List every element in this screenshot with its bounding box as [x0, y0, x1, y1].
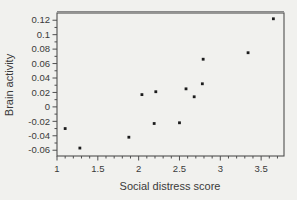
y-axis-label: Brain activity: [3, 53, 15, 116]
data-point: [127, 136, 130, 139]
x-tick-label: 1: [54, 163, 59, 174]
data-point: [247, 51, 250, 54]
y-tick-label: 0.12: [32, 14, 51, 25]
data-point: [154, 90, 157, 93]
data-point: [64, 127, 67, 130]
data-point: [202, 58, 205, 61]
data-points: [64, 17, 275, 149]
y-tick-label: 0: [45, 101, 50, 112]
y-tick-label: 0.02: [32, 87, 51, 98]
data-point: [201, 82, 204, 85]
x-tick-label: 2.5: [173, 163, 186, 174]
data-point: [178, 121, 181, 124]
axis-ticks: [53, 20, 278, 160]
y-tick-label: 0.08: [32, 43, 51, 54]
y-tick-label: 0.06: [32, 58, 51, 69]
y-tick-label: -0.06: [28, 144, 50, 155]
tick-labels: 11.522.533.50.120.10.080.060.040.020-0.0…: [28, 14, 267, 174]
x-tick-label: 2: [136, 163, 141, 174]
y-tick-label: 0.04: [32, 72, 51, 83]
y-tick-label: 0.1: [37, 29, 50, 40]
data-point: [141, 93, 144, 96]
x-tick-label: 3: [218, 163, 223, 174]
x-axis-label: Social distress score: [120, 180, 221, 192]
data-point: [185, 87, 188, 90]
scatter-plot-figure: 11.522.533.50.120.10.080.060.040.020-0.0…: [0, 0, 297, 200]
data-point: [272, 17, 275, 20]
plot-border: [57, 13, 284, 156]
x-tick-label: 3.5: [255, 163, 268, 174]
x-tick-label: 1.5: [91, 163, 104, 174]
scatter-plot: 11.522.533.50.120.10.080.060.040.020-0.0…: [0, 0, 297, 200]
data-point: [78, 147, 81, 150]
y-tick-label: -0.04: [28, 130, 50, 141]
y-tick-label: -0.02: [28, 116, 50, 127]
plot-frame: [57, 12, 284, 156]
data-point: [193, 95, 196, 98]
data-point: [153, 122, 156, 125]
